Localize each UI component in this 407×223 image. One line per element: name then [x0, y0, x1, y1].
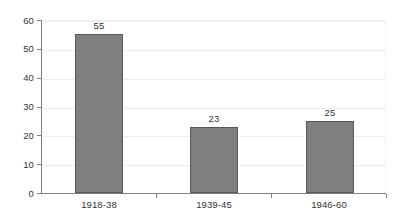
x-axis-label-1918-38: 1918-38 [62, 200, 136, 210]
y-axis-tick-10 [37, 164, 41, 165]
y-axis-line [41, 20, 42, 194]
y-axis-label-50: 50 [6, 44, 34, 54]
bar-1946-60 [306, 121, 354, 193]
y-axis-tick-20 [37, 135, 41, 136]
y-axis-label-60: 60 [6, 16, 34, 26]
bar-1939-45 [190, 127, 238, 193]
y-axis-tick-50 [37, 49, 41, 50]
y-axis-tick-60 [37, 20, 41, 21]
bar-value-1918-38: 55 [75, 21, 123, 31]
y-axis-label-30: 30 [6, 102, 34, 112]
y-axis-tick-30 [37, 107, 41, 108]
x-axis-line [41, 193, 386, 194]
bar-1918-38 [75, 34, 123, 193]
bar-value-1939-45: 23 [190, 114, 238, 124]
y-axis-labels: 60 50 40 30 20 10 0 [0, 0, 34, 223]
x-axis-tick-2 [271, 194, 272, 198]
bar-chart: 60 50 40 30 20 10 0 55 23 25 1918-38 193… [0, 0, 407, 223]
y-axis-label-10: 10 [6, 160, 34, 170]
x-axis-label-1946-60: 1946-60 [292, 200, 366, 210]
y-axis-tick-0 [37, 193, 41, 194]
x-axis-label-1939-45: 1939-45 [177, 200, 251, 210]
y-axis-label-0: 0 [6, 189, 34, 199]
y-axis-label-20: 20 [6, 131, 34, 141]
x-axis-tick-1 [156, 194, 157, 198]
x-axis-tick-3 [386, 194, 387, 198]
y-axis-label-40: 40 [6, 73, 34, 83]
y-axis-tick-40 [37, 78, 41, 79]
bar-value-1946-60: 25 [306, 108, 354, 118]
